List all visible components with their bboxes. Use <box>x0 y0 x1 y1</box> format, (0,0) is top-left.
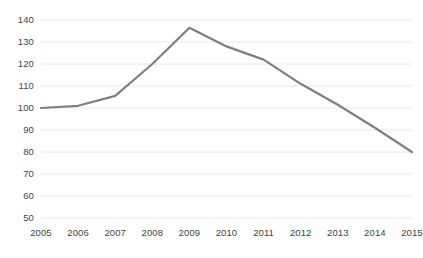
y-tick-label-130: 130 <box>8 37 34 47</box>
y-tick-label-50: 50 <box>8 213 34 223</box>
x-tick-label-2015: 2015 <box>395 228 423 238</box>
x-tick-label-2013: 2013 <box>321 228 355 238</box>
y-tick-label-100: 100 <box>8 103 34 113</box>
x-tick-label-2008: 2008 <box>135 228 169 238</box>
x-tick-label-2012: 2012 <box>284 228 318 238</box>
y-tick-label-110: 110 <box>8 81 34 91</box>
y-tick-label-90: 90 <box>8 125 34 135</box>
y-tick-label-120: 120 <box>8 59 34 69</box>
x-tick-label-2005: 2005 <box>24 228 58 238</box>
gridline-group <box>41 20 412 218</box>
y-tick-label-140: 140 <box>8 15 34 25</box>
x-tick-label-2010: 2010 <box>210 228 244 238</box>
chart-plot-area <box>0 0 423 258</box>
x-tick-label-2007: 2007 <box>98 228 132 238</box>
line-chart: 5060708090100110120130140 20052006200720… <box>0 0 423 258</box>
x-tick-label-2011: 2011 <box>247 228 281 238</box>
x-tick-label-2009: 2009 <box>172 228 206 238</box>
x-tick-label-2006: 2006 <box>61 228 95 238</box>
data-series-group <box>41 28 412 152</box>
y-tick-label-80: 80 <box>8 147 34 157</box>
y-tick-label-70: 70 <box>8 169 34 179</box>
data-line-series-0 <box>41 28 412 152</box>
x-tick-label-2014: 2014 <box>358 228 392 238</box>
y-tick-label-60: 60 <box>8 191 34 201</box>
